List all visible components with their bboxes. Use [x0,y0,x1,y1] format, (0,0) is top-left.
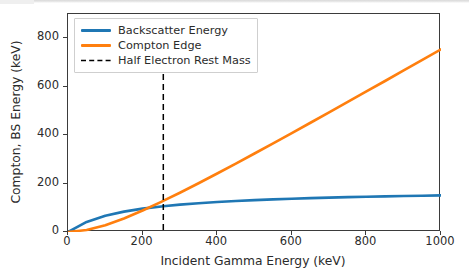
y-tick-label: 0 [52,225,59,237]
x-tick-label: 1000 [425,236,454,248]
x-tick-label: 200 [131,236,153,248]
legend-swatch-backscatter-energy [81,25,111,36]
compton-backscatter-chart: 020040060080010000200400600800 Incident … [0,0,469,279]
x-tick-label: 600 [280,236,302,248]
legend-item-half-electron-rest-mass: Half Electron Rest Mass [81,53,250,68]
x-axis-title: Incident Gamma Energy (keV) [160,255,345,267]
y-tick-label: 800 [37,31,59,43]
y-tick-mark [63,134,67,135]
y-tick-mark [63,37,67,38]
y-tick-label: 400 [37,128,59,140]
legend-item-compton-edge: Compton Edge [81,38,250,53]
legend-label-compton-edge: Compton Edge [118,40,202,51]
y-tick-mark [63,86,67,87]
legend-swatch-half-electron-rest-mass [81,55,111,66]
y-axis-title: Compton, BS Energy (keV) [10,41,22,204]
y-tick-mark [63,231,67,232]
x-tick-label: 400 [205,236,227,248]
y-tick-mark [63,183,67,184]
series-line-backscatter-energy [68,195,441,232]
y-tick-label: 600 [37,80,59,92]
y-tick-label: 200 [37,177,59,189]
x-tick-label: 800 [354,236,376,248]
legend-item-backscatter-energy: Backscatter Energy [81,23,250,38]
legend-label-half-electron-rest-mass: Half Electron Rest Mass [118,55,251,66]
series-line-compton-edge [68,49,441,232]
chart-legend: Backscatter Energy Compton Edge Half Ele… [74,18,258,73]
legend-label-backscatter-energy: Backscatter Energy [118,25,228,36]
figure-page: 020040060080010000200400600800 Incident … [0,0,469,279]
legend-swatch-compton-edge [81,40,111,51]
x-tick-label: 0 [63,236,70,248]
